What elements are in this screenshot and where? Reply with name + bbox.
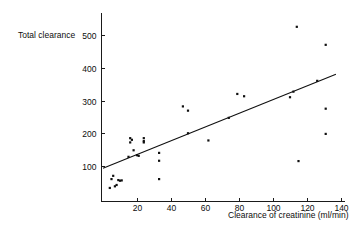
x-tick-label: 100 xyxy=(266,203,280,213)
data-point xyxy=(158,152,160,154)
y-tick-label: 500 xyxy=(82,31,96,41)
data-point xyxy=(325,133,327,135)
data-point xyxy=(109,187,111,189)
y-tick-label: 300 xyxy=(82,97,96,107)
data-point xyxy=(207,139,209,141)
x-tick-label: 20 xyxy=(133,203,143,213)
scatter-plot-figure: Total clearance Clearance of creatinine … xyxy=(0,0,362,230)
y-tick-label: 400 xyxy=(82,64,96,74)
data-point xyxy=(296,26,298,28)
data-point xyxy=(228,117,230,119)
data-point xyxy=(158,178,160,180)
x-tick-label: 40 xyxy=(167,203,177,213)
data-point xyxy=(143,140,145,142)
data-point xyxy=(187,110,189,112)
y-tick-label: 100 xyxy=(82,162,96,172)
x-tick-label: 140 xyxy=(334,203,348,213)
data-point xyxy=(116,184,118,186)
data-point xyxy=(292,91,294,93)
x-tick-group: 20406080100120140 xyxy=(133,198,349,213)
data-point xyxy=(127,156,129,158)
data-point xyxy=(187,132,189,134)
x-tick-label: 60 xyxy=(201,203,211,213)
data-point xyxy=(325,108,327,110)
data-point xyxy=(316,80,318,82)
data-point xyxy=(133,149,135,151)
data-point xyxy=(112,175,114,177)
data-point xyxy=(243,95,245,97)
data-point xyxy=(143,137,145,139)
data-point xyxy=(325,44,327,46)
data-point xyxy=(236,93,238,95)
data-point xyxy=(158,160,160,162)
plot-canvas: 20406080100120140 100200300400500 xyxy=(0,0,362,230)
data-point xyxy=(131,139,133,141)
data-point xyxy=(289,96,291,98)
data-point xyxy=(138,155,140,157)
data-point xyxy=(110,178,112,180)
y-tick-label: 200 xyxy=(82,129,96,139)
data-points-group xyxy=(109,26,327,189)
data-point xyxy=(297,160,299,162)
data-point xyxy=(129,141,131,143)
x-tick-label: 80 xyxy=(235,203,245,213)
data-point xyxy=(121,179,123,181)
axes-group xyxy=(102,13,346,202)
data-point xyxy=(182,105,184,107)
x-tick-label: 120 xyxy=(300,203,314,213)
